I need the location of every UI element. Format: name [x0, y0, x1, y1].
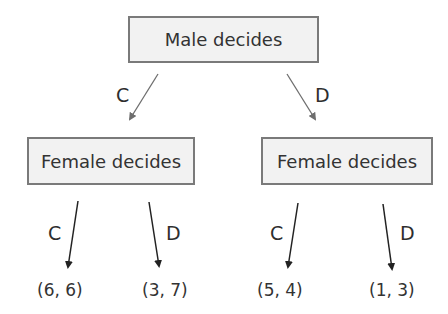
node-label: Male decides	[165, 29, 283, 50]
arrow-male-c	[130, 74, 158, 119]
payoff-dd: (1, 3)	[369, 282, 415, 299]
node-label: Female decides	[41, 151, 181, 172]
arrow-female-left-d	[149, 202, 159, 266]
edge-label-male-c: C	[116, 86, 129, 105]
arrow-male-d	[287, 74, 315, 119]
node-female-decides-left: Female decides	[27, 137, 195, 185]
node-label: Female decides	[277, 151, 417, 172]
payoff-cd: (3, 7)	[142, 282, 188, 299]
node-female-decides-right: Female decides	[261, 137, 433, 185]
payoff-cc: (6, 6)	[37, 282, 83, 299]
node-male-decides: Male decides	[128, 16, 319, 63]
edge-label-left-d: D	[166, 224, 181, 243]
game-tree-diagram: Male decides C D Female decides Female d…	[0, 0, 448, 314]
edge-label-male-d: D	[315, 86, 330, 105]
edge-label-right-d: D	[400, 224, 415, 243]
payoff-dc: (5, 4)	[257, 282, 303, 299]
arrow-female-left-c	[68, 201, 78, 267]
arrow-female-right-d	[383, 204, 392, 269]
edge-label-right-c: C	[270, 224, 283, 243]
edge-label-left-c: C	[48, 224, 61, 243]
arrow-female-right-c	[288, 203, 298, 267]
